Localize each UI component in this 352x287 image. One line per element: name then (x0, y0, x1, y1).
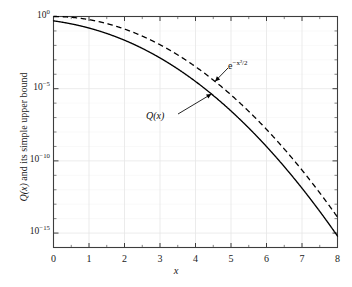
y-axis-title-math: Q(x) (18, 183, 29, 201)
x-tick-label-2: 2 (122, 254, 127, 264)
x-tick-label-4: 4 (193, 254, 198, 264)
y-axis-title-rest: and its simple upper bound (18, 72, 29, 183)
annotation-q-function: Q(x) (146, 111, 164, 121)
y-tick-label-0: 100 (22, 11, 50, 21)
annotation-q-function-label: Q(x) (146, 110, 164, 121)
y-axis-title: Q(x) and its simple upper bound (19, 57, 29, 217)
annotation-upper-bound: e−x²/2 (228, 61, 247, 71)
x-tick-label-3: 3 (158, 254, 163, 264)
x-axis-title: x (0, 266, 352, 277)
x-tick-label-5: 5 (229, 254, 234, 264)
x-tick-label-7: 7 (300, 254, 305, 264)
x-tick-label-8: 8 (335, 254, 340, 264)
x-tick-label-1: 1 (87, 254, 92, 264)
y-tick-label-3: 10−15 (22, 227, 50, 237)
x-tick-label-6: 6 (264, 254, 269, 264)
figure-container: 100 10−5 10−10 10−15 012345678 Q(x) and … (0, 0, 352, 287)
x-tick-label-0: 0 (51, 254, 56, 264)
annotation-upper-bound-exponent: −x²/2 (232, 59, 247, 67)
chart-plot-area (0, 0, 352, 287)
